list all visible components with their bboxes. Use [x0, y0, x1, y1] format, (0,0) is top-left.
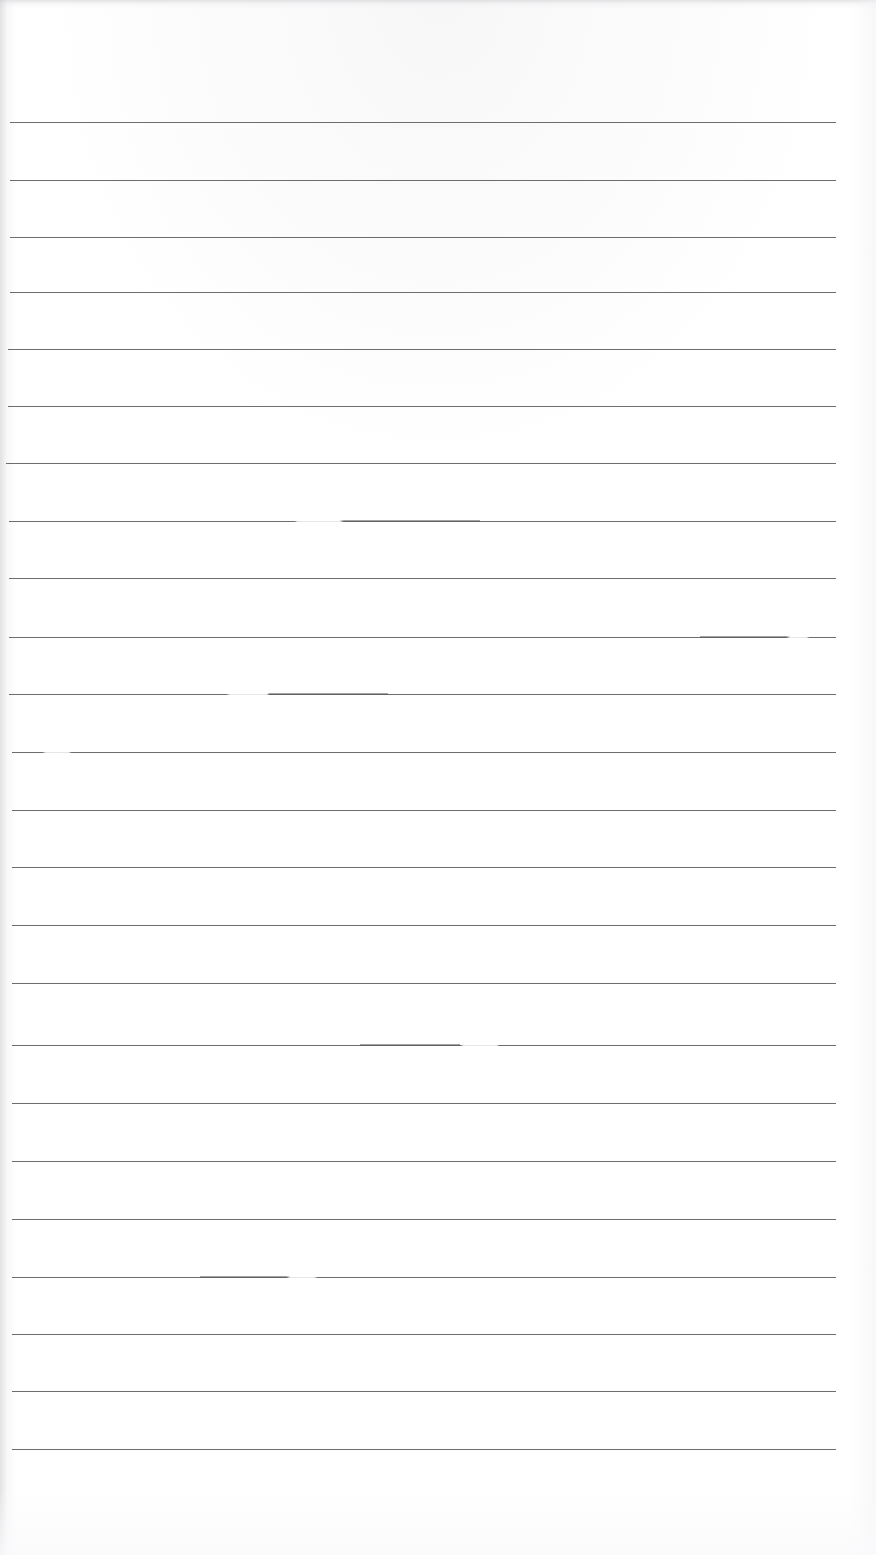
ruled-line	[9, 694, 836, 695]
ruled-line	[12, 1219, 836, 1220]
ruled-line	[10, 122, 836, 123]
scan-dropout-artifact	[288, 1276, 316, 1279]
scan-dropout-artifact	[228, 693, 268, 696]
scan-blot-artifact	[340, 520, 480, 522]
ruled-line	[9, 578, 836, 579]
ruled-line	[12, 1449, 836, 1450]
ruled-line	[12, 1334, 836, 1335]
ruled-line	[12, 925, 836, 926]
ruled-line	[12, 1161, 836, 1162]
scan-bottom-fade	[0, 1485, 876, 1555]
scanned-page	[0, 0, 876, 1555]
scan-blot-artifact	[268, 693, 388, 695]
ruled-line	[8, 406, 836, 407]
ruled-line	[10, 292, 836, 293]
scan-dropout-artifact	[44, 751, 70, 754]
ruled-line	[8, 349, 836, 350]
scan-dropout-artifact	[296, 520, 342, 523]
ruled-lines-layer	[0, 0, 876, 1555]
ruled-line	[6, 463, 836, 464]
scan-dropout-artifact	[788, 636, 808, 639]
ruled-line	[12, 1277, 836, 1278]
scan-blot-artifact	[200, 1276, 290, 1278]
ruled-line	[10, 180, 836, 181]
ruled-line	[12, 867, 836, 868]
scan-dropout-artifact	[462, 1044, 498, 1047]
ruled-line	[12, 1103, 836, 1104]
ruled-line	[12, 752, 836, 753]
ruled-line	[12, 1391, 836, 1392]
ruled-line	[12, 810, 836, 811]
ruled-line	[12, 983, 836, 984]
scan-blot-artifact	[700, 636, 790, 638]
scan-blot-artifact	[360, 1044, 460, 1046]
ruled-line	[10, 237, 836, 238]
